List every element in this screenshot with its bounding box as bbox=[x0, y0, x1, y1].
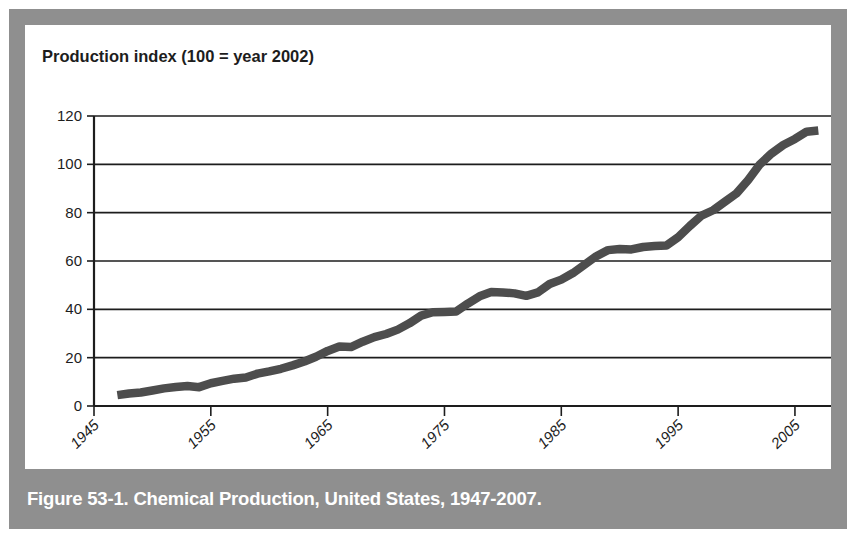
y-tick-label: 100 bbox=[57, 155, 82, 172]
x-tick-label: 1945 bbox=[67, 416, 103, 452]
x-tick-label: 1965 bbox=[300, 416, 336, 452]
y-tick-label: 80 bbox=[65, 204, 82, 221]
x-tick-label: 1955 bbox=[183, 416, 219, 452]
y-tick-label: 60 bbox=[65, 252, 82, 269]
x-axis-tick-labels: 1945195519651975198519952005 bbox=[67, 416, 804, 453]
figure-caption: Figure 53-1. Chemical Production, United… bbox=[9, 469, 847, 529]
line-chart-plot: 020406080100120 194519551965197519851995… bbox=[25, 25, 831, 469]
y-tick-label: 40 bbox=[65, 300, 82, 317]
x-tick-label: 1975 bbox=[417, 416, 453, 452]
x-tick-label: 2005 bbox=[767, 416, 804, 453]
gridlines-group bbox=[94, 116, 831, 406]
figure-frame: Production index (100 = year 2002) 02040… bbox=[9, 9, 847, 529]
y-tick-label: 20 bbox=[65, 349, 82, 366]
chart-panel: Production index (100 = year 2002) 02040… bbox=[25, 25, 831, 469]
y-axis-tick-labels: 020406080100120 bbox=[57, 107, 82, 414]
figure-caption-text: Figure 53-1. Chemical Production, United… bbox=[27, 488, 542, 510]
y-tick-label: 120 bbox=[57, 107, 82, 124]
x-axis-ticks bbox=[94, 406, 795, 416]
data-series-line bbox=[117, 131, 818, 396]
y-tick-label: 0 bbox=[74, 397, 82, 414]
x-tick-label: 1985 bbox=[534, 416, 570, 452]
x-tick-label: 1995 bbox=[651, 416, 687, 452]
